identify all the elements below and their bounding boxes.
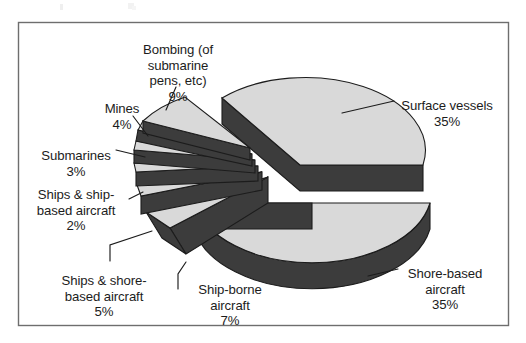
label-ship-borne-aircraft: Ship-borne aircraft 7% <box>182 267 278 343</box>
figure-container: Bombing (of submarine pens, etc) 9% Mine… <box>0 0 526 343</box>
label-mines-pct: 4% <box>82 117 162 132</box>
label-shore-based-aircraft-pct: 35% <box>390 297 500 312</box>
label-shore-based-aircraft: Shore-based aircraft 35% <box>390 251 500 328</box>
label-submarines-name: Submarines <box>41 148 110 163</box>
label-ships-ship-based-aircraft-name: Ships & ship- based aircraft <box>37 187 116 217</box>
label-mines-name: Mines <box>105 101 140 116</box>
label-ship-borne-aircraft-name: Ship-borne aircraft <box>198 282 262 312</box>
label-ships-shore-based-aircraft-pct: 5% <box>44 304 164 319</box>
label-surface-vessels-name: Surface vessels <box>401 98 493 113</box>
label-surface-vessels: Surface vessels 35% <box>388 83 506 145</box>
label-ships-shore-based-aircraft: Ships & shore- based aircraft 5% <box>44 258 164 335</box>
label-ships-ship-based-aircraft: Ships & ship- based aircraft 2% <box>22 172 130 249</box>
label-ships-shore-based-aircraft-name: Ships & shore- based aircraft <box>61 273 146 303</box>
label-surface-vessels-pct: 35% <box>388 114 506 129</box>
label-shore-based-aircraft-name: Shore-based aircraft <box>408 266 482 296</box>
label-ship-borne-aircraft-pct: 7% <box>182 313 278 328</box>
label-bombing-name: Bombing (of submarine pens, etc) <box>143 42 213 88</box>
label-ships-ship-based-aircraft-pct: 2% <box>22 218 130 233</box>
